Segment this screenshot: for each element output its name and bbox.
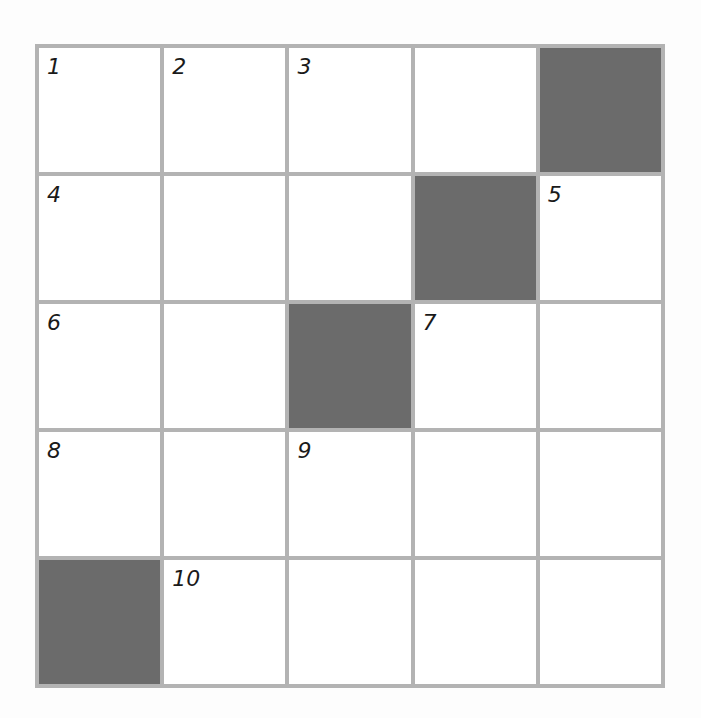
- answer-cell[interactable]: [289, 176, 410, 300]
- answer-cell[interactable]: [540, 432, 661, 556]
- answer-cell[interactable]: 10: [164, 560, 285, 684]
- block-cell: [39, 560, 160, 684]
- clue-number: 6: [47, 310, 61, 335]
- answer-cell[interactable]: [540, 304, 661, 428]
- answer-cell[interactable]: [415, 432, 536, 556]
- clue-number: 8: [47, 438, 61, 463]
- clue-number: 7: [423, 310, 437, 335]
- answer-cell[interactable]: 6: [39, 304, 160, 428]
- answer-cell[interactable]: [164, 304, 285, 428]
- answer-cell[interactable]: [164, 176, 285, 300]
- answer-cell[interactable]: 2: [164, 48, 285, 172]
- block-cell: [415, 176, 536, 300]
- clue-number: 4: [47, 182, 61, 207]
- clue-number: 9: [297, 438, 311, 463]
- clue-number: 10: [172, 566, 200, 591]
- clue-number: 1: [47, 54, 61, 79]
- answer-cell[interactable]: [164, 432, 285, 556]
- answer-cell[interactable]: [415, 560, 536, 684]
- block-cell: [540, 48, 661, 172]
- answer-cell[interactable]: 9: [289, 432, 410, 556]
- answer-cell[interactable]: 3: [289, 48, 410, 172]
- answer-cell[interactable]: [415, 48, 536, 172]
- answer-cell[interactable]: 7: [415, 304, 536, 428]
- answer-cell[interactable]: 4: [39, 176, 160, 300]
- clue-number: 2: [172, 54, 186, 79]
- answer-cell[interactable]: 1: [39, 48, 160, 172]
- answer-cell[interactable]: [540, 560, 661, 684]
- clue-number: 5: [548, 182, 562, 207]
- block-cell: [289, 304, 410, 428]
- answer-cell[interactable]: 5: [540, 176, 661, 300]
- clue-number: 3: [297, 54, 311, 79]
- answer-cell[interactable]: [289, 560, 410, 684]
- answer-cell[interactable]: 8: [39, 432, 160, 556]
- crossword-grid: 12345678910: [35, 44, 665, 688]
